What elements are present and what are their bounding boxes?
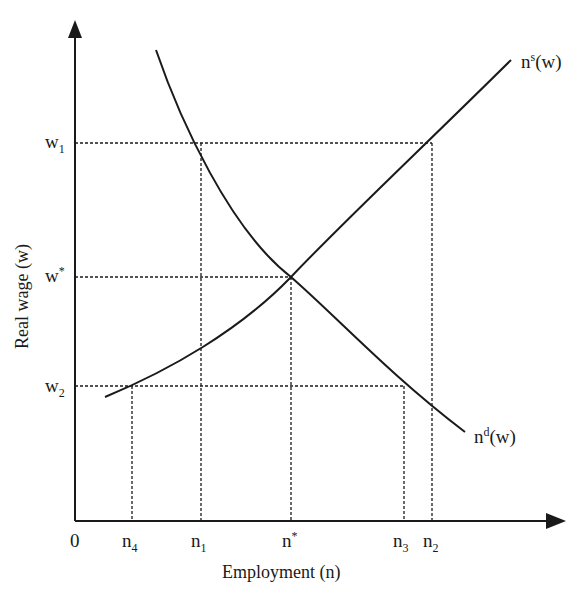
labor-supply-curve bbox=[105, 60, 511, 397]
x-axis-title: Employment (n) bbox=[222, 563, 340, 581]
supply-curve-label: ns(w) bbox=[521, 52, 562, 71]
labor-market-diagram bbox=[0, 0, 579, 595]
demand-curve-label: nd(w) bbox=[474, 427, 516, 446]
y-axis-title: Real wage (w) bbox=[12, 244, 33, 349]
tick-w1: w1 bbox=[45, 132, 65, 151]
origin-label: 0 bbox=[70, 531, 80, 550]
tick-n2: n2 bbox=[423, 531, 439, 550]
y-axis-arrow-icon bbox=[68, 20, 82, 38]
tick-w2: w2 bbox=[45, 376, 65, 395]
tick-n4: n4 bbox=[122, 531, 138, 550]
tick-n1: n1 bbox=[191, 531, 207, 550]
tick-nstar: n* bbox=[282, 531, 298, 550]
tick-wstar: w* bbox=[45, 266, 65, 285]
labor-demand-curve bbox=[156, 50, 465, 432]
tick-n3: n3 bbox=[393, 531, 409, 550]
x-axis-arrow-icon bbox=[546, 513, 566, 529]
